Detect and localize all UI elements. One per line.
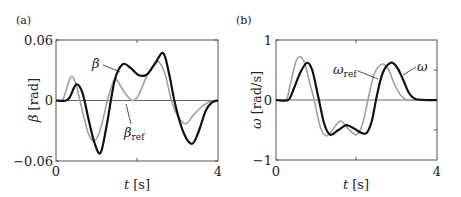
annotation-omega-ref: ωref bbox=[333, 62, 357, 79]
figure: (a) 0.06 0 −0.06 0 4 t [s] β [rad] β βre… bbox=[0, 0, 461, 197]
y-axis-label-b: ω [rad/s] bbox=[249, 71, 264, 129]
x-axis-label-b: t [s] bbox=[343, 177, 369, 192]
ytick-top-a: 0.06 bbox=[24, 33, 53, 48]
xtick-left-b: 0 bbox=[272, 164, 280, 179]
ytick-zero-b: 0 bbox=[264, 93, 272, 108]
ytick-bottom-a: −0.06 bbox=[13, 154, 53, 169]
xtick-right-b: 4 bbox=[433, 164, 441, 179]
panel-a: (a) 0.06 0 −0.06 0 4 t [s] β [rad] β βre… bbox=[13, 14, 222, 192]
annotation-omega: ω bbox=[417, 59, 428, 74]
annotation-beta: β bbox=[91, 56, 100, 71]
xtick-left-a: 0 bbox=[52, 164, 60, 179]
ytick-zero-a: 0 bbox=[45, 93, 53, 108]
panel-b: (b) 1 0 −1 0 4 t [s] ω [rad/s] ωref ω bbox=[236, 14, 441, 192]
x-axis-label-a: t [s] bbox=[124, 177, 150, 192]
ytick-top-b: 1 bbox=[264, 33, 272, 48]
panel-label-a: (a) bbox=[16, 14, 31, 27]
y-axis-label-a: β [rad] bbox=[26, 78, 41, 123]
annotation-beta-ref: βref bbox=[123, 125, 145, 142]
panel-label-b: (b) bbox=[236, 14, 252, 27]
ytick-bottom-b: −1 bbox=[253, 153, 272, 168]
xtick-right-a: 4 bbox=[214, 164, 222, 179]
